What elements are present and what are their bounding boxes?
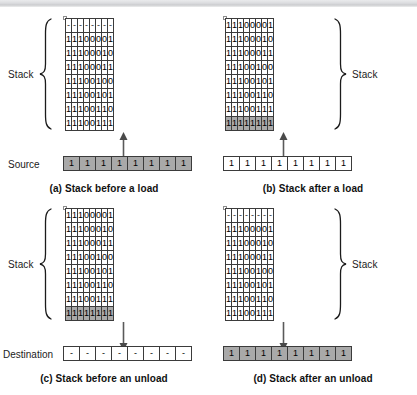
stack-cell: 1 [102,237,108,251]
caption-a: (a) Stack before a load [0,183,208,194]
stack-cell: 0 [250,33,256,47]
stack-cell: 1 [226,47,232,61]
stack-cell: 0 [244,75,250,89]
stack-cell: 1 [78,75,84,89]
stack-cell: 0 [250,279,256,293]
stack-cell: 1 [66,61,72,75]
stack-cell: 1 [232,223,238,237]
stack-cell: 1 [238,89,244,103]
stack-cell: 1 [268,279,274,293]
stack-cell: 1 [108,307,114,321]
stack-grid-row: 11100101 [66,265,114,279]
stack-cell: 1 [96,279,102,293]
stack-cell: 1 [102,103,108,117]
stack-cell: 0 [250,293,256,307]
stack-cell: 1 [238,279,244,293]
stack-cell: 0 [250,251,256,265]
stack-cell: 1 [78,117,84,131]
stack-cell: 0 [250,61,256,75]
stack-grid-row: 11100010 [226,237,274,251]
stack-cell: 1 [72,237,78,251]
panel-a: Stack --------11100001111000101110001111… [0,16,208,206]
stack-cell: 1 [102,117,108,131]
stack-cell: 1 [96,307,102,321]
stack-cell: 0 [96,47,102,61]
stack-cell: 1 [238,307,244,321]
stack-cell: 1 [78,237,84,251]
stack-cell: 0 [102,89,108,103]
io-cell: 1 [176,157,192,171]
stack-cell: 0 [84,237,90,251]
io-cell: 1 [320,157,336,171]
stack-cell: 1 [78,223,84,237]
stack-cell: 0 [244,33,250,47]
stack-brace-group-c: Stack [8,208,52,320]
io-cell: 1 [128,157,144,171]
stack-cell: 1 [102,307,108,321]
stack-cell: 0 [84,279,90,293]
io-row: -------- [64,347,192,361]
stack-cell: 0 [90,209,96,223]
stack-cell: 0 [90,75,96,89]
stack-cell: 0 [90,89,96,103]
stack-cell: 0 [102,75,108,89]
stack-grid-row: 11100001 [226,19,274,33]
stack-grid-row: 11100110 [66,279,114,293]
stack-cell: 1 [72,279,78,293]
stack-cell: 0 [244,237,250,251]
stack-cell: 1 [226,307,232,321]
stack-cell: 1 [66,209,72,223]
right-brace-icon [334,18,347,130]
stack-cell: 0 [262,265,268,279]
stack-cell: 1 [66,265,72,279]
stack-cell: 1 [232,89,238,103]
stack-cell: 1 [102,47,108,61]
stack-cell: 0 [96,237,102,251]
stack-cell: 1 [226,89,232,103]
stack-cell: 1 [232,279,238,293]
stack-cell: 0 [90,117,96,131]
stack-cell: 1 [238,19,244,33]
left-brace-icon [39,18,52,130]
stack-cell: 0 [250,75,256,89]
stack-cell: 1 [66,75,72,89]
stack-cell: 0 [102,33,108,47]
stack-cell: 1 [262,237,268,251]
stack-cell: 1 [232,237,238,251]
stack-cell: 0 [102,251,108,265]
stack-cell: 1 [238,293,244,307]
stack-cell: 1 [78,89,84,103]
stack-grid-wrap-a: --------11100001111000101110001111100100… [63,16,67,20]
stack-cell: 1 [232,251,238,265]
stack-grid-row: 11100111 [226,307,274,321]
io-cell: 1 [336,157,352,171]
stack-cell: 1 [262,103,268,117]
stack-cell: 0 [90,103,96,117]
stack-cell: 1 [232,47,238,61]
stack-cell: 1 [256,75,262,89]
stack-cell: 1 [238,103,244,117]
stack-cell: 1 [96,117,102,131]
stack-cell: 0 [108,47,114,61]
stack-grid-row: -------- [226,209,274,223]
stack-cell: 1 [108,265,114,279]
stack-cell: 1 [226,117,232,131]
stack-cell: 1 [96,251,102,265]
stack-grid-row: 11100100 [66,251,114,265]
stack-cell: 1 [66,279,72,293]
stack-cell: 1 [268,103,274,117]
stack-cell: 1 [108,89,114,103]
stack-grid-row: 11100101 [66,89,114,103]
io-cell: 1 [320,347,336,361]
io-cell: 1 [224,347,240,361]
stack-cell: 0 [84,209,90,223]
stack-brace-group-b: Stack [334,18,378,130]
stack-cell: 0 [108,75,114,89]
stack-cell: 1 [226,265,232,279]
stack-cell: 0 [244,279,250,293]
stack-cell: 0 [90,293,96,307]
io-row: 11111111 [64,157,192,171]
stack-cell: 1 [96,103,102,117]
stack-cell: 1 [84,307,90,321]
scan-artifact-strip-lower [0,7,417,16]
